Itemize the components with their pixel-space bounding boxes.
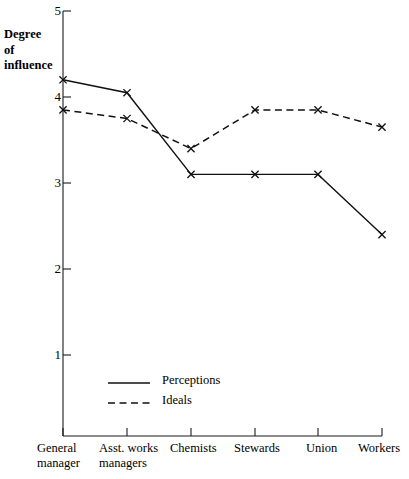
x-tick-label-line: Chemists <box>170 441 217 456</box>
x-tick-label-stewards: Stewards <box>234 441 280 456</box>
x-tick-label-workers: Workers <box>358 441 400 456</box>
legend-item-perceptions: Perceptions <box>108 373 288 393</box>
x-tick-label-line: Stewards <box>234 441 280 456</box>
legend: Perceptions Ideals <box>108 373 288 413</box>
x-tick-label-general-manager: General manager <box>37 441 80 471</box>
data-point-ideals-2 <box>187 145 194 152</box>
legend-swatch-dashed-icon <box>108 402 150 404</box>
x-tick-label-line: Workers <box>358 441 400 456</box>
series-line-ideals <box>63 110 382 149</box>
legend-swatch-solid-icon <box>108 382 150 384</box>
series-line-perceptions <box>63 80 382 235</box>
data-point-perceptions-5 <box>378 231 385 238</box>
x-tick-label-chemists: Chemists <box>170 441 217 456</box>
x-tick-label-line: Asst. works <box>99 441 158 456</box>
legend-label-perceptions: Perceptions <box>162 373 220 388</box>
x-tick-label-union: Union <box>306 441 337 456</box>
x-tick-label-line: Union <box>306 441 337 456</box>
x-tick-label-line: manager <box>37 456 80 471</box>
x-tick-label-line: managers <box>99 456 158 471</box>
x-tick-label-asst-works-managers: Asst. works managers <box>99 441 158 471</box>
x-tick-label-line: General <box>37 441 80 456</box>
legend-label-ideals: Ideals <box>162 393 192 408</box>
line-chart: Degree of influence 5 4 3 2 1 General ma… <box>0 0 409 479</box>
legend-item-ideals: Ideals <box>108 393 288 413</box>
series-layer <box>59 76 385 238</box>
